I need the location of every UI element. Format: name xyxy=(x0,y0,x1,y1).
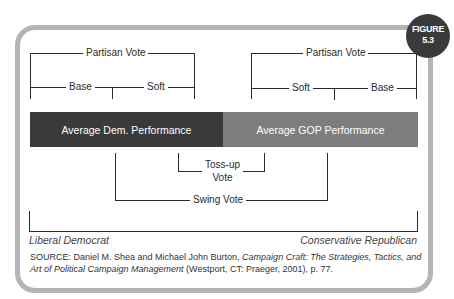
badge-line1: FIGURE xyxy=(406,24,450,35)
right-soft-label: Soft xyxy=(289,82,313,94)
left-partisan-label: Partisan Vote xyxy=(83,47,148,59)
gop-performance-label: Average GOP Performance xyxy=(256,124,384,136)
left-base-label: Base xyxy=(66,81,95,93)
conservative-republican-label: Conservative Republican xyxy=(300,234,417,246)
badge-line2: 5.3 xyxy=(406,35,450,46)
liberal-democrat-label: Liberal Democrat xyxy=(29,234,109,246)
right-partisan-label: Partisan Vote xyxy=(303,47,368,59)
dem-performance-bar: Average Dem. Performance xyxy=(30,112,223,147)
left-soft-label: Soft xyxy=(144,81,168,93)
tossup-label: Toss-up Vote xyxy=(202,158,243,184)
right-base-label: Base xyxy=(368,82,397,94)
figure-badge: FIGURE 5.3 xyxy=(406,14,450,58)
dem-performance-label: Average Dem. Performance xyxy=(62,124,192,136)
source-citation: SOURCE: Daniel M. Shea and Michael John … xyxy=(30,251,430,275)
gop-performance-bar: Average GOP Performance xyxy=(223,112,418,147)
swing-label: Swing Vote xyxy=(190,194,246,206)
